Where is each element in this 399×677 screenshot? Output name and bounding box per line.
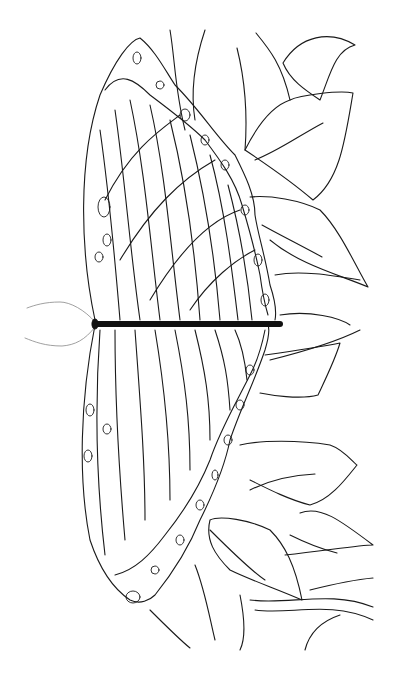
wing-vein — [155, 330, 170, 500]
wing-spot — [224, 435, 232, 445]
leaf — [245, 92, 353, 200]
wing-vein — [228, 185, 252, 320]
leaf — [240, 441, 357, 505]
wing-vein — [210, 155, 238, 320]
head — [92, 319, 98, 329]
leaf-vein — [255, 123, 323, 160]
leaf — [285, 511, 373, 555]
leaf — [280, 313, 350, 325]
leaf — [283, 37, 355, 100]
wing-vein — [100, 130, 120, 320]
wing-vein — [150, 210, 240, 300]
wing-vein — [150, 105, 180, 320]
wing-vein — [190, 250, 255, 310]
stem — [305, 615, 340, 650]
wing-vein — [170, 120, 200, 320]
wing-border — [105, 79, 268, 315]
leaf — [240, 595, 244, 650]
butterfly-illustration — [0, 0, 399, 677]
stem — [255, 609, 373, 620]
leaf-vein — [250, 474, 315, 490]
wing-vein — [135, 330, 145, 520]
wing-vein — [175, 330, 190, 470]
wing-vein — [115, 110, 140, 320]
wing-spot — [196, 500, 204, 510]
wing-vein — [190, 135, 220, 320]
leaf-vein — [210, 530, 265, 580]
wing-spot — [86, 404, 94, 416]
wing-spot — [98, 197, 110, 217]
leaves — [150, 30, 373, 650]
leaf — [195, 565, 215, 640]
wing-spot — [212, 470, 218, 480]
wing-spot — [156, 81, 164, 89]
leaf — [150, 610, 190, 648]
butterfly-body — [25, 302, 280, 346]
leaf — [260, 343, 340, 397]
wing-spot — [176, 535, 184, 545]
leaf — [237, 48, 246, 150]
antenna — [25, 327, 95, 346]
wing-spot — [133, 52, 141, 64]
stem — [310, 578, 373, 590]
wing-vein — [105, 115, 180, 200]
antenna — [27, 302, 95, 322]
stem — [250, 599, 373, 607]
leaf-vein — [290, 535, 337, 553]
wing-spot — [103, 234, 111, 246]
wing-spot — [95, 252, 103, 262]
upper-wing — [84, 38, 276, 320]
leaf — [209, 518, 302, 600]
wing-vein — [97, 330, 105, 555]
wing-vein — [235, 330, 247, 380]
coloring-page — [0, 0, 399, 677]
wing-vein — [195, 330, 210, 440]
wing-spot — [84, 450, 92, 462]
wing-spot — [151, 566, 159, 574]
wing-vein — [215, 330, 230, 410]
wing-spot — [103, 424, 111, 434]
lower-wing — [82, 325, 269, 603]
wing-vein — [115, 330, 125, 540]
leaf — [270, 330, 360, 360]
